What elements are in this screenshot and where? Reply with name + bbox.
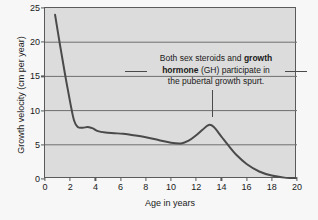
x-tick-label-2: 2 <box>68 182 73 192</box>
annotation-leader-right <box>285 71 307 72</box>
annotation-emphasis: hormone <box>162 65 198 75</box>
x-tick-mark-2 <box>70 177 71 181</box>
x-tick-label-6: 6 <box>118 182 123 192</box>
annotation-emphasis: growth <box>244 53 272 63</box>
y-tick-label-25: 25 <box>30 3 40 13</box>
x-axis-title: Age in years <box>44 198 296 208</box>
y-tick-mark-10 <box>41 110 45 111</box>
x-tick-label-12: 12 <box>191 182 201 192</box>
annotation-line-0: Both sex steroids and growth <box>146 53 286 65</box>
x-tick-mark-20 <box>296 177 297 181</box>
annotation-text: Both sex steroids and <box>160 53 244 63</box>
y-tick-label-10: 10 <box>30 106 40 116</box>
annotation-line-1: hormone (GH) participate in <box>146 65 286 77</box>
annotation-line-2: the pubertal growth spurt. <box>146 76 286 88</box>
plot-area: 051015202502468101214161820 <box>44 7 296 178</box>
y-tick-label-15: 15 <box>30 71 40 81</box>
y-tick-mark-25 <box>41 7 45 8</box>
x-tick-mark-8 <box>145 177 146 181</box>
x-tick-mark-14 <box>221 177 222 181</box>
y-tick-label-20: 20 <box>30 37 40 47</box>
growth-velocity-figure: Growth velocity (cm per year) 0510152025… <box>0 0 318 220</box>
x-tick-label-16: 16 <box>242 182 252 192</box>
x-tick-label-4: 4 <box>93 182 98 192</box>
x-tick-label-8: 8 <box>143 182 148 192</box>
annotation-text: the pubertal growth spurt. <box>168 76 264 86</box>
x-tick-mark-16 <box>246 177 247 181</box>
x-tick-mark-10 <box>170 177 171 181</box>
x-tick-mark-18 <box>271 177 272 181</box>
data-line-0 <box>55 15 297 178</box>
y-tick-mark-20 <box>41 42 45 43</box>
y-tick-mark-5 <box>41 144 45 145</box>
annotation-leader-left <box>125 71 147 72</box>
x-tick-mark-12 <box>196 177 197 181</box>
x-tick-label-20: 20 <box>292 182 302 192</box>
y-tick-label-0: 0 <box>35 174 40 184</box>
growth-velocity-line-chart <box>45 8 297 179</box>
x-tick-mark-0 <box>44 177 45 181</box>
x-tick-label-14: 14 <box>216 182 226 192</box>
annotation-text: (GH) participate in <box>199 65 270 75</box>
y-tick-mark-15 <box>41 76 45 77</box>
x-tick-mark-6 <box>120 177 121 181</box>
pubertal-spurt-annotation: Both sex steroids and growthhormone (GH)… <box>146 53 286 88</box>
x-tick-mark-4 <box>95 177 96 181</box>
y-tick-label-5: 5 <box>35 140 40 150</box>
y-axis-title: Growth velocity (cm per year) <box>16 10 26 180</box>
x-tick-label-0: 0 <box>42 182 47 192</box>
annotation-pointer-line <box>212 90 213 117</box>
x-tick-label-18: 18 <box>267 182 277 192</box>
x-tick-label-10: 10 <box>166 182 176 192</box>
